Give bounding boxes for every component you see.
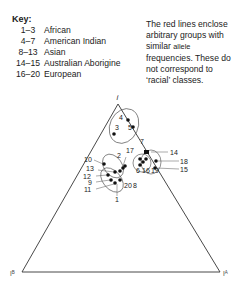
point-18	[154, 159, 158, 163]
point-3	[112, 132, 116, 136]
label-7: 7	[140, 138, 144, 145]
label-6: 6	[136, 167, 140, 174]
point-8	[123, 164, 127, 168]
label-19: 19	[151, 167, 159, 174]
point-4	[126, 118, 130, 122]
label-3: 3	[115, 124, 119, 131]
point-1	[118, 178, 122, 182]
label-2: 2	[117, 152, 121, 159]
point-labels: 4 3 5 7 17 2 14 18 15 10 13 12 9 11 6 16…	[83, 114, 188, 203]
label-9: 9	[88, 179, 92, 186]
label-18: 18	[180, 158, 188, 165]
label-20: 20	[124, 182, 132, 189]
enclosure-american-indian	[104, 104, 145, 148]
ternary-triangle	[22, 104, 220, 272]
point-14	[144, 150, 149, 154]
label-8: 8	[133, 182, 137, 189]
label-4: 4	[119, 114, 123, 121]
label-14: 14	[170, 149, 178, 156]
label-17: 17	[126, 147, 134, 154]
point-17	[138, 157, 142, 161]
point-16b	[144, 157, 148, 161]
label-13: 13	[86, 165, 94, 172]
label-10: 10	[84, 156, 92, 163]
point-16	[141, 160, 145, 164]
label-16: 16	[142, 167, 150, 174]
vertex-label-i: i	[117, 93, 119, 102]
point-20	[118, 169, 122, 173]
ternary-diagram: i IB IA	[0, 0, 235, 288]
label-5: 5	[128, 124, 132, 131]
vertex-label-ia: IA	[223, 270, 228, 277]
label-11: 11	[84, 186, 91, 193]
label-1: 1	[115, 196, 119, 203]
label-15: 15	[180, 166, 188, 173]
vertex-label-ib: IB	[10, 270, 15, 277]
